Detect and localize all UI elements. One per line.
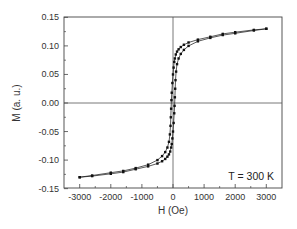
data-point-marker [234,32,236,34]
data-point-marker [91,175,93,177]
data-point-marker [174,96,176,98]
data-point-marker [173,61,175,63]
y-tick-label: -0.05 [38,127,59,137]
temperature-annotation: T = 300 K [228,170,274,182]
y-tick-label: 0.10 [41,41,59,51]
data-point-marker [161,155,163,157]
data-point-marker [169,150,171,152]
data-point-marker [164,151,166,153]
data-point-marker [183,49,185,51]
x-tick-label: 1000 [194,192,214,202]
x-tick-label: -1000 [130,192,153,202]
x-tick-label: 3000 [256,192,276,202]
data-point-marker [177,57,179,59]
data-point-marker [161,160,163,162]
data-point-marker [79,176,81,178]
x-tick-label: -3000 [68,192,91,202]
data-point-marker [180,46,182,48]
y-tick-label: -0.15 [38,184,59,194]
data-point-marker [174,79,176,81]
y-tick-label: -0.10 [38,155,59,165]
data-point-marker [187,41,189,43]
data-point-marker [166,146,168,148]
data-point-marker [156,159,158,161]
data-point-marker [175,53,177,55]
data-point-marker [171,143,173,145]
data-point-marker [187,45,189,47]
y-tick-label: 0.15 [41,12,59,22]
data-point-marker [173,112,175,114]
data-point-marker [172,122,174,124]
x-tick-label: 0 [170,192,175,202]
data-point-marker [172,66,174,68]
data-point-marker [176,63,178,65]
data-point-marker [180,53,182,55]
data-point-marker [170,108,172,110]
x-tick-label: -2000 [99,192,122,202]
y-axis-title: M (a. u.) [11,84,22,121]
y-tick-label: 0.00 [41,98,59,108]
data-point-marker [222,34,224,36]
data-point-marker [171,82,173,84]
data-point-marker [175,70,177,72]
data-point-marker [168,153,170,155]
data-point-marker [174,88,176,90]
hysteresis-chart: -3000-2000-10000100020003000 0.150.100.0… [0,0,297,229]
x-axis-title: H (Oe) [158,205,188,216]
data-point-marker [197,40,199,42]
data-point-marker [170,146,172,148]
data-point-marker [166,155,168,157]
data-point-marker [110,173,112,175]
data-point-marker [253,29,255,31]
data-point-marker [183,44,185,46]
data-point-marker [169,125,171,127]
data-point-marker [265,28,267,30]
data-point-marker [171,92,173,94]
data-point-marker [122,171,124,173]
data-point-marker [177,48,179,50]
x-tick-label: 2000 [225,192,245,202]
data-point-marker [172,130,174,132]
data-point-marker [164,158,166,160]
data-point-marker [176,50,178,52]
y-tick-label: 0.05 [41,69,59,79]
data-point-marker [147,165,149,167]
data-point-marker [171,137,173,139]
data-point-marker [172,73,174,75]
data-point-marker [209,37,211,39]
data-point-marker [134,168,136,170]
data-point-marker [173,105,175,107]
data-point-marker [174,57,176,59]
data-point-marker [170,99,172,101]
data-point-marker [168,141,170,143]
data-point-marker [169,133,171,135]
x-axis-ticks: -3000-2000-10000100020003000 [68,184,276,202]
data-point-marker [170,116,172,118]
data-point-marker [156,162,158,164]
